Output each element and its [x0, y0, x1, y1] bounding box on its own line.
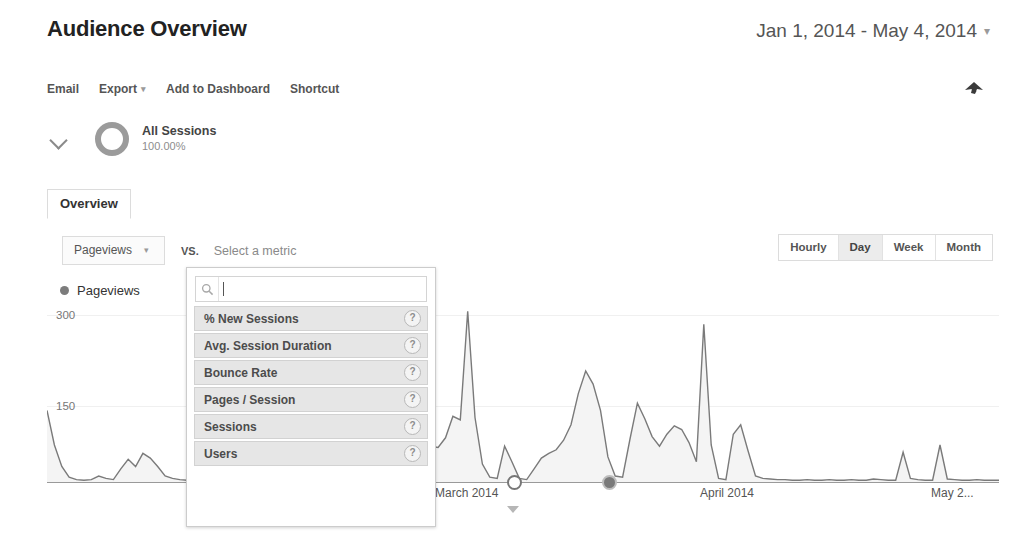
email-label: Email [47, 82, 79, 96]
annotation-caret-icon[interactable] [507, 506, 519, 513]
segment-name: All Sessions [142, 124, 216, 138]
page-title: Audience Overview [47, 16, 247, 42]
date-range-selector[interactable]: Jan 1, 2014 - May 4, 2014▾ [756, 20, 990, 42]
text-cursor [223, 282, 224, 296]
metric-option-avg-session-duration[interactable]: Avg. Session Duration ? [194, 333, 428, 358]
metric-option-label: Pages / Session [204, 393, 295, 407]
metric-option-users[interactable]: Users ? [194, 441, 428, 466]
chevron-down-icon: ▾ [144, 245, 149, 255]
metric-option-new-sessions[interactable]: % New Sessions ? [194, 306, 428, 331]
metric-option-label: Bounce Rate [204, 366, 277, 380]
segment-bar: All Sessions 100.00% [47, 122, 216, 156]
metric-controls: Pageviews ▾ VS. Select a metric [62, 236, 296, 265]
metric-option-pages-per-session[interactable]: Pages / Session ? [194, 387, 428, 412]
metric-option-label: % New Sessions [204, 312, 299, 326]
primary-metric-label: Pageviews [74, 243, 132, 257]
segment-percent: 100.00% [142, 139, 216, 154]
segment-donut-icon [95, 122, 129, 156]
granularity-hourly[interactable]: Hourly [779, 235, 838, 260]
report-tabs: Overview [47, 189, 131, 219]
metric-search-input[interactable] [218, 277, 426, 301]
granularity-day[interactable]: Day [839, 235, 883, 260]
vs-label: VS. [181, 245, 199, 257]
date-range-label: Jan 1, 2014 - May 4, 2014 [756, 20, 977, 41]
help-icon[interactable]: ? [404, 337, 421, 354]
segment-info[interactable]: All Sessions 100.00% [142, 124, 216, 154]
metric-option-label: Avg. Session Duration [204, 339, 332, 353]
add-to-dashboard-button[interactable]: Add to Dashboard [166, 82, 270, 96]
shortcut-label: Shortcut [290, 82, 339, 96]
metric-option-label: Sessions [204, 420, 257, 434]
granularity-switcher: Hourly Day Week Month [778, 234, 993, 261]
metric-option-list: % New Sessions ? Avg. Session Duration ?… [194, 306, 428, 466]
search-icon [196, 283, 218, 296]
x-axis-label-april: April 2014 [700, 486, 754, 500]
help-icon[interactable]: ? [404, 310, 421, 327]
shortcut-button[interactable]: Shortcut [290, 82, 339, 96]
chevron-down-icon[interactable] [47, 126, 73, 152]
help-icon[interactable]: ? [404, 445, 421, 462]
x-axis-label-may: May 2... [931, 486, 974, 500]
help-icon[interactable]: ? [404, 391, 421, 408]
metric-option-sessions[interactable]: Sessions ? [194, 414, 428, 439]
report-toolbar: Email Export▾ Add to Dashboard Shortcut [47, 82, 339, 96]
help-icon[interactable]: ? [404, 418, 421, 435]
help-icon[interactable]: ? [404, 364, 421, 381]
metric-option-bounce-rate[interactable]: Bounce Rate ? [194, 360, 428, 385]
metric-select-dropdown: % New Sessions ? Avg. Session Duration ?… [186, 267, 436, 527]
metric-option-label: Users [204, 447, 237, 461]
chevron-down-icon: ▾ [984, 24, 990, 38]
marker-inner [511, 479, 518, 486]
export-button[interactable]: Export▾ [99, 82, 146, 96]
secondary-metric-button[interactable]: Select a metric [214, 244, 297, 258]
tab-overview[interactable]: Overview [47, 189, 131, 219]
share-icon[interactable] [963, 80, 985, 96]
metric-search-field[interactable] [195, 276, 427, 302]
granularity-month[interactable]: Month [936, 235, 992, 260]
analytics-page: Audience Overview Jan 1, 2014 - May 4, 2… [0, 0, 1035, 554]
x-axis-label-march: March 2014 [435, 486, 498, 500]
add-to-dashboard-label: Add to Dashboard [166, 82, 270, 96]
granularity-week[interactable]: Week [883, 235, 936, 260]
primary-metric-button[interactable]: Pageviews ▾ [62, 236, 165, 265]
marker-inner [606, 479, 613, 486]
export-label: Export [99, 82, 137, 96]
email-button[interactable]: Email [47, 82, 79, 96]
tab-overview-label: Overview [60, 196, 118, 211]
chevron-down-icon: ▾ [141, 84, 146, 94]
